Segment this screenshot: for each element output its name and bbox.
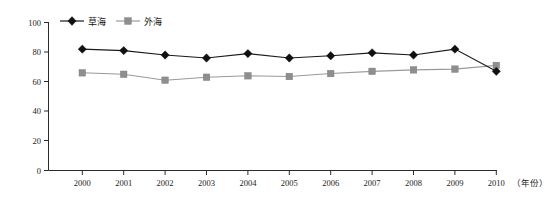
data-point-caohai-2005 [285,54,293,62]
y-axis-label-40: 40 [33,106,42,116]
data-point-caohai-2008 [409,51,417,59]
data-point-waihai-2005 [286,73,293,80]
series-group [78,45,500,84]
y-axis-label-0: 0 [37,166,41,176]
data-point-caohai-2009 [451,45,459,53]
data-point-waihai-2006 [327,70,334,77]
x-axis-label-2007: 2007 [364,178,381,188]
data-point-waihai-2007 [369,68,376,75]
x-axis-label-2000: 2000 [74,178,91,188]
legend-marker-square-icon [125,18,132,25]
data-point-waihai-2003 [203,74,210,81]
legend-item-caohai: 草海 [60,16,106,27]
legend-label-caohai: 草海 [88,16,106,27]
chart-canvas: 草海 外海 100 [0,0,554,203]
legend-item-waihai: 外海 [116,16,162,27]
x-axis-ticks [82,171,496,176]
data-point-caohai-2000 [78,45,86,53]
series-markers-waihai [79,62,500,83]
y-axis-label-80: 80 [33,47,42,57]
x-axis-label-2006: 2006 [322,178,339,188]
data-point-waihai-2004 [245,72,252,79]
data-point-caohai-2006 [327,52,335,60]
chart-axes: 100 80 60 40 20 0 [28,18,548,189]
data-point-caohai-2002 [161,51,169,59]
x-axis-label-2008: 2008 [405,178,422,188]
legend-label-waihai: 外海 [144,16,162,27]
data-point-caohai-2003 [202,54,210,62]
x-axis-label-2003: 2003 [198,178,215,188]
x-axis-label-2005: 2005 [281,178,298,188]
chart-legend: 草海 外海 [60,16,162,27]
data-point-caohai-2007 [368,49,376,57]
x-axis-label-2004: 2004 [239,178,257,188]
y-axis-label-100: 100 [28,18,41,28]
data-point-waihai-2002 [162,77,169,84]
x-axis-label-2001: 2001 [115,178,132,188]
y-axis-label-20: 20 [33,136,42,146]
x-axis-labels: 2000 2001 2002 2003 2004 2005 2006 2007 … [74,178,505,188]
x-axis-label-2010: 2010 [488,178,505,188]
series-markers-caohai [78,45,500,76]
y-axis-label-60: 60 [33,77,42,87]
y-axis-ticks [44,23,49,171]
data-point-caohai-2001 [120,46,128,54]
y-axis-labels: 100 80 60 40 20 0 [28,18,41,176]
data-point-waihai-2000 [79,70,86,77]
legend-marker-diamond-icon [68,17,76,26]
x-axis-label-2002: 2002 [157,178,174,188]
x-axis-caption: （年份） [512,178,548,188]
data-point-caohai-2004 [244,49,252,57]
data-point-waihai-2009 [452,66,459,73]
line-chart: 草海 外海 100 [0,0,554,203]
x-axis-label-2009: 2009 [446,178,463,188]
data-point-waihai-2008 [410,67,417,74]
data-point-waihai-2001 [120,71,127,78]
